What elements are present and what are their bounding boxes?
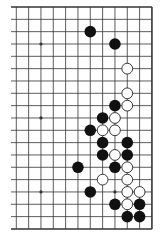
black-stone-icon: [84, 125, 96, 137]
black-stone-icon: [97, 137, 109, 149]
star-point-icon: [113, 190, 116, 193]
white-stone-icon: [134, 187, 145, 198]
black-stone-icon: [121, 211, 133, 223]
black-stone-icon: [72, 161, 84, 173]
star-point-icon: [39, 190, 42, 193]
black-stone-icon: [84, 186, 96, 198]
white-stone-icon: [122, 174, 133, 185]
white-stone-icon: [122, 100, 133, 111]
black-stone-icon: [97, 149, 109, 161]
white-stone-icon: [110, 113, 121, 124]
black-stone-icon: [134, 198, 146, 210]
star-point-icon: [39, 116, 42, 119]
white-stone-icon: [122, 88, 133, 99]
white-stone-icon: [97, 125, 108, 136]
black-stone-icon: [97, 112, 109, 124]
white-stone-icon: [122, 199, 133, 210]
white-stone-icon: [97, 174, 108, 185]
black-stone-icon: [109, 100, 121, 112]
white-stone-icon: [110, 125, 121, 136]
white-stone-icon: [110, 150, 121, 161]
black-stone-icon: [109, 38, 121, 50]
black-stone-icon: [109, 198, 121, 210]
black-stone-icon: [84, 26, 96, 38]
black-stone-icon: [121, 137, 133, 149]
star-point-icon: [39, 42, 42, 45]
go-board-diagram: [0, 0, 163, 239]
white-stone-icon: [122, 63, 133, 74]
black-stone-icon: [109, 161, 121, 173]
white-stone-icon: [122, 187, 133, 198]
black-stone-icon: [134, 211, 146, 223]
black-stone-icon: [121, 149, 133, 161]
white-stone-icon: [122, 162, 133, 173]
